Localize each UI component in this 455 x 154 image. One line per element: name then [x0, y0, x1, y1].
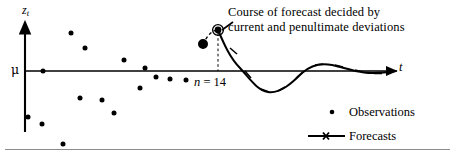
- annotation-line-2: current and penultimate deviations: [228, 20, 405, 35]
- forecast-annotation: Course of forecast decided by current an…: [228, 5, 405, 34]
- observation-dot: [184, 78, 189, 83]
- observation-dot: [40, 122, 45, 127]
- observation-dot: [26, 115, 31, 120]
- observation-dot: [83, 46, 88, 51]
- observation-dot: [100, 98, 105, 103]
- legend-observations-label: Observations: [349, 106, 415, 119]
- legend-forecasts-label: Forecasts: [349, 130, 396, 143]
- bottom-divider: [5, 149, 450, 150]
- y-axis-label: zt: [22, 4, 29, 18]
- forecast-marker: [230, 48, 237, 54]
- legend-observations-marker-icon: [330, 110, 335, 115]
- forecast-marker: [388, 71, 396, 72]
- forecast-marker: [296, 72, 303, 78]
- current-deviation-point: [215, 27, 222, 34]
- observation-dot: [138, 86, 143, 91]
- y-axis-label-subscript: t: [27, 8, 29, 18]
- observation-dot: [78, 96, 83, 101]
- observation-dot: [143, 66, 148, 71]
- annotation-line-1: Course of forecast decided by: [228, 5, 405, 20]
- observation-dot: [122, 58, 127, 63]
- forecast-figure: Course of forecast decided by current an…: [0, 0, 455, 154]
- observation-dot: [41, 69, 46, 74]
- legend-forecasts-marker-icon: [308, 133, 345, 140]
- observation-dot: [168, 77, 173, 82]
- x-axis-label: t: [399, 61, 402, 74]
- forecast-origin-value: = 14: [200, 75, 226, 89]
- forecast-origin-label: n = 14: [194, 76, 226, 89]
- observation-dot: [154, 75, 159, 80]
- forecast-marker: [315, 64, 323, 65]
- observation-dot: [69, 31, 74, 36]
- observation-dot: [61, 142, 66, 147]
- forecast-curve: [218, 30, 396, 92]
- mean-level-label: μ: [11, 64, 19, 77]
- observation-dot: [112, 111, 117, 116]
- observations-series: [26, 31, 189, 147]
